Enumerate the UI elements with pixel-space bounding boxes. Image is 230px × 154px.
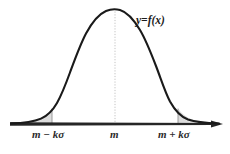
normal-distribution-figure: y=f(x) m − kσ m m + kσ [0, 0, 230, 154]
x-axis-label-lower-bound: m − kσ [32, 129, 64, 140]
curve-equation-label: y=f(x) [136, 15, 165, 27]
x-axis-label-mean: m [110, 129, 119, 140]
x-axis-label-upper-bound: m + kσ [158, 129, 190, 140]
